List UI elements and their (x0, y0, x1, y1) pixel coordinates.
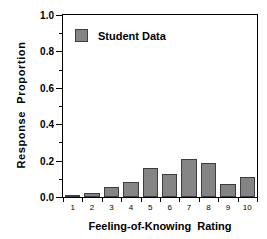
y-tick-minor (59, 142, 63, 143)
y-tick-major (56, 15, 63, 16)
x-tick-label-5: 5 (148, 203, 152, 212)
y-tick-label: 0.0 (40, 192, 54, 203)
bar-9 (220, 184, 236, 197)
x-tick-label-8: 8 (206, 203, 210, 212)
bar-6 (162, 174, 178, 197)
legend-swatch-student-data (75, 29, 88, 42)
y-tick-label: 0.2 (40, 155, 54, 166)
x-tick-label-9: 9 (226, 203, 230, 212)
x-tick-label-10: 10 (243, 203, 252, 212)
x-tick-label-6: 6 (167, 203, 171, 212)
y-tick-label: 1.0 (40, 10, 54, 21)
chart-figure: Response Proportion 0.00.20.40.60.81.0 1… (0, 0, 267, 239)
x-tick (238, 197, 239, 202)
x-tick (141, 197, 142, 202)
y-tick-label: 0.6 (40, 82, 54, 93)
x-tick-label-1: 1 (70, 203, 74, 212)
y-axis-title: Response Proportion (15, 15, 27, 195)
y-tick-major (56, 51, 63, 52)
bar-7 (181, 159, 197, 197)
chart-legend: Student Data (75, 29, 166, 42)
x-tick (82, 197, 83, 202)
bar-5 (143, 168, 159, 197)
plot-area: 0.00.20.40.60.81.0 12345678910 Student D… (62, 14, 258, 198)
bar-8 (201, 163, 217, 197)
bar-10 (240, 177, 256, 197)
y-tick-label: 0.4 (40, 119, 54, 130)
legend-label-student-data: Student Data (98, 30, 166, 42)
x-tick-label-3: 3 (109, 203, 113, 212)
y-tick-minor (59, 179, 63, 180)
y-tick-major (56, 124, 63, 125)
y-tick-label: 0.8 (40, 46, 54, 57)
x-tick (121, 197, 122, 202)
bar-2 (84, 193, 100, 197)
bar-3 (104, 187, 120, 197)
x-tick (257, 197, 258, 202)
y-tick-major (56, 197, 63, 198)
x-tick (102, 197, 103, 202)
y-tick-minor (59, 106, 63, 107)
bar-4 (123, 182, 139, 197)
x-tick (199, 197, 200, 202)
x-tick-label-4: 4 (129, 203, 133, 212)
y-tick-major (56, 88, 63, 89)
y-tick-minor (59, 33, 63, 34)
x-tick (63, 197, 64, 202)
x-tick (179, 197, 180, 202)
x-tick (218, 197, 219, 202)
x-tick (160, 197, 161, 202)
x-tick-label-7: 7 (187, 203, 191, 212)
x-tick-label-2: 2 (90, 203, 94, 212)
y-tick-major (56, 161, 63, 162)
x-axis-title: Feeling-of-Knowing Rating (62, 220, 258, 232)
bar-1 (65, 195, 81, 197)
y-tick-minor (59, 70, 63, 71)
